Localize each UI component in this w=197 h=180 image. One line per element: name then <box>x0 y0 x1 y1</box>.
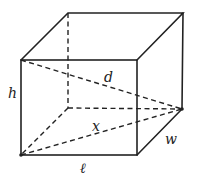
base-diagonal-x <box>21 109 182 155</box>
label-width: w <box>165 131 177 147</box>
hidden-edge-left-bottom <box>21 108 68 155</box>
label-base-diagonal: x <box>92 118 100 134</box>
vertex-dot-back-bottom-right <box>180 107 184 111</box>
label-length: ℓ <box>80 160 86 176</box>
space-diagonal-d <box>21 60 182 109</box>
label-height: h <box>8 85 17 101</box>
label-space-diagonal: d <box>104 69 113 85</box>
hidden-edge-back-bottom <box>68 108 182 109</box>
vertex-dot-front-bottom-left <box>19 153 23 157</box>
top-face-edges <box>21 13 183 60</box>
box-diagram: h d x ℓ w <box>0 0 197 180</box>
